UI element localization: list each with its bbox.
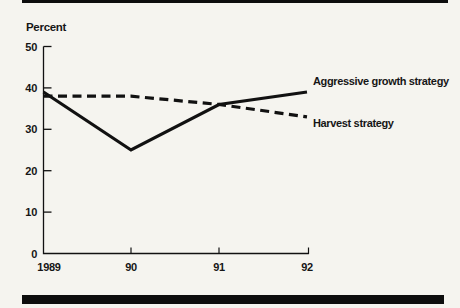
axes: [44, 47, 309, 254]
strategy-line-chart: Percent 010203040501989909192 Aggressive…: [0, 0, 460, 308]
y-tick-label: 40: [25, 82, 37, 94]
y-tick-label: 10: [25, 206, 37, 218]
x-tick-label: 92: [301, 261, 313, 273]
y-tick-label: 30: [25, 123, 37, 135]
bottom-rule: [22, 295, 444, 304]
series-label-harvest: Harvest strategy: [313, 117, 394, 129]
y-tick-label: 20: [25, 165, 37, 177]
chart-svg: 010203040501989909192: [0, 0, 460, 308]
series-line-harvest: [44, 96, 308, 117]
x-tick-label: 1989: [37, 261, 60, 273]
series-label-aggressive-growth: Aggressive growth strategy: [313, 75, 449, 87]
x-tick-label: 91: [213, 261, 225, 273]
x-tick-label: 90: [125, 261, 137, 273]
y-tick-label: 50: [25, 41, 37, 53]
y-tick-label: 0: [31, 248, 37, 260]
